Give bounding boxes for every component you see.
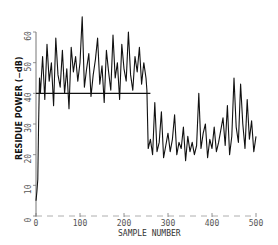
y-tick-label: 30: [24, 123, 33, 133]
x-tick-label: 200: [117, 219, 132, 228]
x-tick-label: 0: [34, 219, 39, 228]
x-ticks: 0100200300400500: [34, 213, 264, 228]
x-tick-label: 100: [73, 219, 88, 228]
x-axis-title: SAMPLE NUMBER: [118, 229, 181, 238]
y-tick-label: 50: [24, 62, 33, 72]
x-tick-label: 400: [205, 219, 220, 228]
y-tick-label: 10: [24, 184, 33, 194]
x-tick-label: 500: [249, 219, 264, 228]
y-ticks: 0102030405060: [24, 31, 36, 222]
y-tick-label: 0: [24, 217, 33, 222]
y-tick-label: 40: [24, 92, 33, 102]
x-tick-label: 300: [161, 219, 176, 228]
y-tick-label: 60: [24, 31, 33, 41]
y-axis-title: RESIDUE POWER (−dB): [15, 57, 24, 161]
data-series-residue-power: [36, 17, 256, 201]
y-tick-label: 20: [24, 154, 33, 164]
residue-power-chart: 0102030405060 0100200300400500 RESIDUE P…: [0, 0, 278, 245]
